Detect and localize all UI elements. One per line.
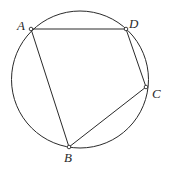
vertex-point-c (144, 85, 148, 89)
quadrilateral-sides (31, 29, 146, 147)
cyclic-quadrilateral-diagram: A D C B (0, 0, 169, 170)
label-a: A (16, 18, 25, 33)
vertex-point-b (67, 145, 71, 149)
vertex-point-d (124, 27, 128, 31)
label-d: D (128, 16, 139, 31)
vertex-point-a (29, 27, 33, 31)
label-c: C (152, 86, 161, 101)
vertices (29, 27, 148, 149)
label-b: B (64, 150, 72, 165)
segment-cb (69, 87, 146, 147)
segment-dc (126, 29, 146, 87)
segment-ba (31, 29, 69, 147)
vertex-labels: A D C B (16, 16, 161, 165)
